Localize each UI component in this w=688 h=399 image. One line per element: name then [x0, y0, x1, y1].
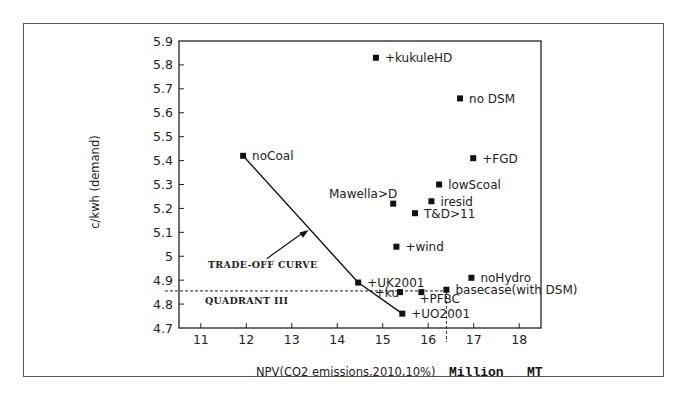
arrow-shaft [267, 233, 303, 259]
scatter-chart: 4.74.84.955.15.25.35.45.55.65.75.85.9111… [0, 0, 688, 399]
trade-off-curve-label: TRADE-OFF CURVE [208, 259, 318, 270]
data-point-label: no DSM [469, 92, 515, 106]
data-point-marker [355, 280, 361, 286]
y-tick-label: 5 [165, 249, 173, 264]
data-point-label: +UO2001 [411, 307, 470, 321]
x-tick-label: 18 [511, 332, 527, 347]
x-axis-label: NPV(CO2 emissions,2010,10%) [256, 365, 436, 379]
x-tick-label: 16 [420, 332, 436, 347]
y-tick-label: 4.8 [153, 297, 173, 312]
data-point-marker [468, 275, 474, 281]
x-tick-label: 13 [284, 332, 300, 347]
quadrant-label: QUADRANT III [205, 295, 288, 306]
y-tick-label: 5.5 [153, 129, 173, 144]
data-point-marker [390, 201, 396, 207]
y-tick-label: 4.9 [153, 273, 173, 288]
data-point-label: +PFBC [419, 292, 460, 306]
y-tick-label: 5.9 [153, 34, 173, 49]
data-point-label: basecase(with DSM) [455, 283, 577, 297]
arrow-head-icon [299, 230, 308, 238]
y-tick-label: 5.7 [153, 81, 173, 96]
data-points: +kukuleHDno DSMnoCoal+FGDlowScoalMawella… [240, 51, 577, 321]
data-point-marker [373, 55, 379, 61]
data-point-label: lowScoal [448, 178, 501, 192]
y-tick-label: 5.6 [153, 105, 173, 120]
data-point-label: Mawella>D [329, 187, 397, 201]
y-tick-label: 5.4 [153, 153, 173, 168]
y-tick-label: 5.3 [153, 177, 173, 192]
data-point-marker [399, 311, 405, 317]
data-point-marker [436, 182, 442, 188]
data-point-label: +kukuleHD [385, 51, 452, 65]
x-tick-label: 11 [193, 332, 209, 347]
data-point-marker [240, 153, 246, 159]
data-point-label: +wind [405, 240, 443, 254]
data-point-label: noCoal [252, 149, 293, 163]
y-tick-label: 5.1 [153, 225, 173, 240]
y-tick-label: 5.8 [153, 57, 173, 72]
data-point-marker [412, 210, 418, 216]
y-axis-label: c/kwh (demand) [88, 135, 102, 228]
y-tick-label: 5.2 [153, 201, 173, 216]
y-tick-label: 4.7 [153, 321, 173, 336]
data-point-label: +FGD [482, 152, 518, 166]
annotations: QUADRANT IIITRADE-OFF CURVE [205, 230, 318, 306]
x-tick-label: 12 [238, 332, 254, 347]
x-tick-label: 14 [329, 332, 345, 347]
x-axis-units: Million MT [449, 365, 543, 380]
x-tick-label: 17 [466, 332, 482, 347]
x-tick-label: 15 [375, 332, 391, 347]
data-point-label: +ku [375, 286, 399, 300]
data-point-marker [428, 198, 434, 204]
data-point-marker [457, 95, 463, 101]
data-point-marker [470, 155, 476, 161]
data-point-marker [393, 244, 399, 250]
data-point-label: T&D>11 [423, 207, 475, 221]
